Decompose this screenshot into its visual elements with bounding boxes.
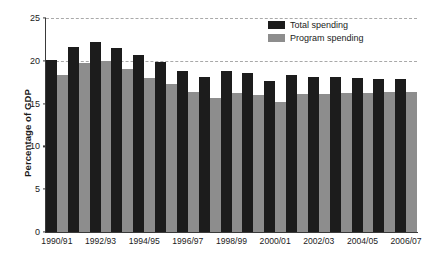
bar-total-spending <box>373 79 384 232</box>
bar-program-spending <box>122 69 133 232</box>
bar-group <box>155 18 177 232</box>
y-axis-tick-label: 0 <box>35 227 40 237</box>
bar-program-spending <box>232 93 243 232</box>
bar-total-spending <box>395 79 406 232</box>
bar-group <box>199 18 221 232</box>
bar-groups <box>46 18 417 232</box>
bar-program-spending <box>79 63 90 232</box>
x-axis-tick-label: 1998/99 <box>216 236 247 246</box>
bar-total-spending <box>68 47 79 232</box>
bar-total-spending <box>177 71 188 232</box>
legend-item-program: Program spending <box>268 33 364 43</box>
bar-total-spending <box>352 78 363 232</box>
bar-group <box>242 18 264 232</box>
bar-total-spending <box>133 55 144 232</box>
x-axis-tick-label: 1990/91 <box>41 236 72 246</box>
bar-total-spending <box>46 60 57 232</box>
bar-total-spending <box>90 42 101 232</box>
bar-program-spending <box>297 94 308 232</box>
bar-group <box>395 18 417 232</box>
y-axis-tick-label: 25 <box>30 13 40 23</box>
bar-total-spending <box>199 77 210 232</box>
bar-group <box>133 18 155 232</box>
x-axis-tick-label: 2004/05 <box>347 236 378 246</box>
plot-area: 0510152025 <box>46 18 417 232</box>
bar-program-spending <box>144 78 155 232</box>
chart-legend: Total spending Program spending <box>268 20 364 43</box>
x-axis-tick-label: 1996/97 <box>172 236 203 246</box>
bar-program-spending <box>101 61 112 232</box>
bar-group <box>46 18 68 232</box>
legend-label-total: Total spending <box>290 20 348 30</box>
bar-program-spending <box>275 102 286 232</box>
bar-program-spending <box>188 92 199 232</box>
legend-label-program: Program spending <box>290 33 364 43</box>
bar-total-spending <box>242 73 253 232</box>
x-axis-tick-labels: 1990/911992/931994/951996/971998/992000/… <box>46 236 417 256</box>
bar-total-spending <box>308 77 319 232</box>
bar-group <box>373 18 395 232</box>
bar-program-spending <box>363 93 374 232</box>
x-axis-tick-label: 2006/07 <box>391 236 422 246</box>
y-axis-tick-label: 20 <box>30 56 40 66</box>
bar-program-spending <box>406 92 417 232</box>
bar-program-spending <box>319 94 330 232</box>
x-axis-tick-label: 1994/95 <box>129 236 160 246</box>
y-axis-tick-label: 15 <box>30 99 40 109</box>
y-axis-tick-label: 5 <box>35 184 40 194</box>
bar-program-spending <box>57 75 68 232</box>
bar-group <box>308 18 330 232</box>
legend-swatch-program-icon <box>268 34 285 42</box>
x-axis-tick-label: 1992/93 <box>85 236 116 246</box>
x-axis-tick-label: 2002/03 <box>303 236 334 246</box>
bar-group <box>330 18 352 232</box>
bar-program-spending <box>384 92 395 232</box>
bar-total-spending <box>221 71 232 232</box>
bar-group <box>111 18 133 232</box>
bar-program-spending <box>166 84 177 232</box>
bar-total-spending <box>264 81 275 232</box>
bar-group <box>221 18 243 232</box>
bar-total-spending <box>155 62 166 232</box>
bar-group <box>68 18 90 232</box>
bar-total-spending <box>286 75 297 232</box>
bar-group <box>90 18 112 232</box>
bar-group <box>264 18 286 232</box>
legend-swatch-total-icon <box>268 21 285 29</box>
bar-group <box>177 18 199 232</box>
chart-figure: Percentage of GDP 0510152025 1990/911992… <box>0 0 424 266</box>
bar-group <box>352 18 374 232</box>
y-axis-tick-label: 10 <box>30 141 40 151</box>
bar-program-spending <box>253 95 264 232</box>
bar-group <box>286 18 308 232</box>
bar-program-spending <box>210 98 221 232</box>
x-axis-tick-label: 2000/01 <box>260 236 291 246</box>
bar-program-spending <box>341 93 352 232</box>
legend-item-total: Total spending <box>268 20 364 30</box>
bar-total-spending <box>330 77 341 232</box>
y-axis-title: Percentage of GDP <box>22 48 33 218</box>
x-axis-line <box>45 232 418 233</box>
bar-total-spending <box>111 48 122 232</box>
